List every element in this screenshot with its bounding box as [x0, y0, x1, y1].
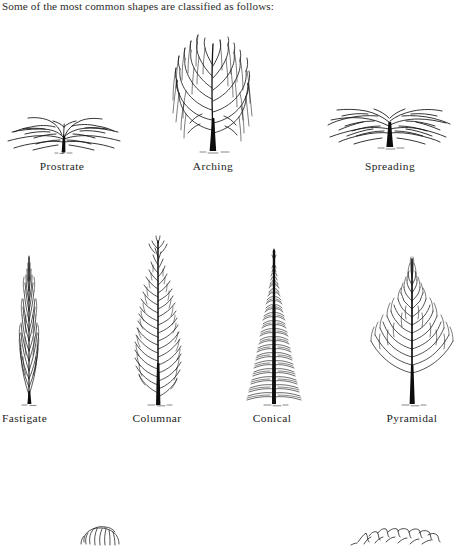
- tree-figure-row3-left-partial: [70, 522, 140, 546]
- rounded-crown-partial-drawing: [70, 522, 140, 546]
- conical-trunk: [272, 305, 276, 404]
- columnar-trunk: [156, 363, 160, 405]
- spreading-trunk: [386, 122, 393, 147]
- tree-label-fastigate: Fastigate: [0, 412, 84, 424]
- columnar-tree-drawing: [115, 233, 201, 407]
- pyramidal-trunk: [410, 365, 415, 404]
- prostrate-tree-drawing: [0, 105, 130, 155]
- tree-figure-prostrate: [0, 105, 130, 155]
- tree-label-conical: Conical: [222, 412, 322, 424]
- sketch-crown-partial-drawing: [348, 524, 444, 546]
- tree-label-pyramidal: Pyramidal: [352, 412, 458, 424]
- tree-label-spreading: Spreading: [330, 160, 450, 172]
- tree-figure-arching: [150, 30, 280, 155]
- tree-figure-columnar: [115, 233, 201, 407]
- tree-figure-spreading: [318, 96, 452, 152]
- tree-label-prostrate: Prostrate: [0, 160, 124, 172]
- prostrate-trunk: [62, 136, 66, 153]
- fastigate-tree-drawing: [0, 245, 60, 407]
- tree-figure-fastigate: [0, 245, 60, 407]
- tree-label-arching: Arching: [153, 160, 273, 172]
- conical-tree-drawing: [228, 245, 320, 407]
- tree-figure-row3-right-partial: [348, 524, 444, 546]
- arching-tree-drawing: [150, 30, 280, 155]
- tree-figure-conical: [228, 245, 320, 407]
- pyramidal-tree-drawing: [358, 253, 458, 407]
- tree-label-columnar: Columnar: [97, 412, 217, 424]
- tree-figure-pyramidal: [358, 253, 458, 407]
- spreading-tree-drawing: [318, 96, 452, 152]
